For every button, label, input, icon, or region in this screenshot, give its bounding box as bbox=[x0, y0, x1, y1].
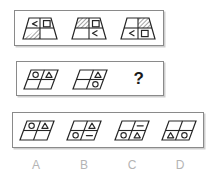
figure-parallelogram-2[interactable] bbox=[69, 66, 111, 92]
option-c-figure[interactable] bbox=[111, 117, 153, 143]
question-mark: ? bbox=[118, 70, 160, 87]
figure-trapezoid-3[interactable] bbox=[117, 15, 159, 41]
answer-options-panel bbox=[12, 112, 204, 148]
option-labels-row: A B C D bbox=[12, 155, 204, 175]
analogy-row-panel: ? bbox=[16, 61, 164, 96]
figure-trapezoid-1[interactable] bbox=[19, 15, 61, 41]
option-label-b: B bbox=[63, 158, 105, 172]
option-label-a: A bbox=[15, 158, 57, 172]
option-label-c: C bbox=[111, 158, 153, 172]
question-row-panel bbox=[14, 10, 164, 46]
option-d-figure[interactable] bbox=[158, 117, 200, 143]
analogy-row-figures: ? bbox=[17, 62, 163, 95]
option-b-figure[interactable] bbox=[63, 117, 105, 143]
figure-parallelogram-1[interactable] bbox=[20, 66, 62, 92]
option-a-figure[interactable] bbox=[16, 117, 58, 143]
figure-trapezoid-2[interactable] bbox=[68, 15, 110, 41]
option-label-d: D bbox=[159, 158, 201, 172]
question-row-figures bbox=[15, 11, 163, 45]
answer-options-figures bbox=[13, 113, 203, 147]
